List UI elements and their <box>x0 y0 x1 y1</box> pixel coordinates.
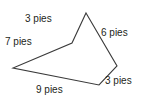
side-label-left: 7 pies <box>5 36 32 47</box>
side-label-top: 3 pies <box>25 13 52 24</box>
side-label-lower-right: 3 pies <box>105 75 132 86</box>
polygon-diagram <box>0 0 146 108</box>
polygon-figure: 3 pies 7 pies 6 pies 3 pies 9 pies <box>0 0 146 108</box>
side-label-upper-right: 6 pies <box>101 27 128 38</box>
side-label-bottom: 9 pies <box>36 84 63 95</box>
